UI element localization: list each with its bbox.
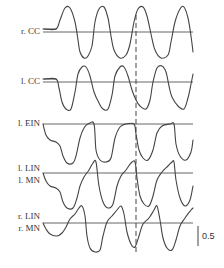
label-r-mn: r. MN [0, 224, 40, 233]
label-r-lin: r. LIN [0, 212, 40, 221]
trace-1 [44, 66, 193, 111]
trace-4 [43, 206, 193, 253]
trace-3 [43, 160, 193, 209]
label-l-lin: l. LIN [0, 164, 40, 173]
baselines [43, 32, 193, 223]
traces [43, 6, 193, 252]
label-l-mn: l. MN [0, 176, 40, 185]
label-l-ein: l. EIN [0, 119, 40, 128]
trace-2 [43, 122, 193, 164]
label-r-cc: r. CC [0, 27, 40, 36]
scale-bar-label: 0.5 [202, 232, 215, 241]
label-l-cc: l. CC [0, 77, 40, 86]
